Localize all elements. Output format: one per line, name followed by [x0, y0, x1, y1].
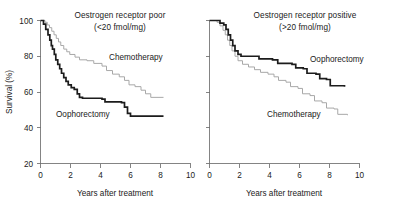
left-ytick-40: 40	[24, 124, 34, 133]
left-xtick-6: 6	[128, 171, 133, 180]
panel-oestrogen-receptor-poor: Oestrogen receptor poor (<20 fmol/mg)	[0, 0, 197, 205]
left-y-ticks	[37, 21, 41, 164]
right-xtick-2: 2	[237, 171, 242, 180]
right-panel-subtitle: (>20 fmol/mg)	[279, 23, 331, 32]
curve-oophorectomy-left	[41, 21, 164, 117]
right-x-ticks	[210, 164, 360, 168]
left-label-chemotherapy: Chemotherapy	[109, 53, 164, 62]
right-xtick-8: 8	[327, 171, 332, 180]
left-panel-plot: Oestrogen receptor poor (<20 fmol/mg)	[0, 0, 197, 205]
left-xtick-4: 4	[98, 171, 103, 180]
left-x-ticks	[41, 164, 191, 168]
left-xtick-10: 10	[186, 171, 196, 180]
right-panel-plot: Oestrogen receptor positive (>20 fmol/mg…	[197, 0, 394, 205]
panel-oestrogen-receptor-positive: Oestrogen receptor positive (>20 fmol/mg…	[197, 0, 394, 205]
left-xtick-2: 2	[68, 171, 73, 180]
right-x-axis-label: Years after treatment	[246, 189, 323, 198]
right-xtick-0: 0	[207, 171, 212, 180]
right-label-oophorectomy: Oophorectomy	[310, 55, 365, 64]
left-x-axis-label: Years after treatment	[77, 189, 154, 198]
right-y-ticks	[206, 21, 210, 164]
right-axes	[206, 21, 360, 168]
left-axes	[37, 21, 191, 168]
left-ytick-100: 100	[19, 17, 33, 26]
left-label-oophorectomy: Oophorectomy	[56, 110, 111, 119]
left-xtick-8: 8	[158, 171, 163, 180]
left-xtick-0: 0	[38, 171, 43, 180]
right-x-ticklabels: 0 2 4 6 8 10	[207, 171, 364, 180]
left-ytick-60: 60	[24, 88, 34, 97]
right-label-chemotherapy: Chemotherapy	[267, 110, 322, 119]
left-ytick-20: 20	[24, 160, 34, 169]
left-ytick-80: 80	[24, 52, 34, 61]
left-y-ticklabels: 100 80 60 40 20	[19, 17, 33, 169]
left-panel-title: Oestrogen receptor poor	[74, 11, 165, 20]
right-panel-title: Oestrogen receptor positive	[254, 11, 357, 20]
right-curves	[210, 21, 348, 116]
left-x-ticklabels: 0 2 4 6 8 10	[38, 171, 195, 180]
left-y-axis-label: Survival (%)	[5, 70, 14, 114]
right-xtick-10: 10	[355, 171, 365, 180]
left-panel-subtitle: (<20 fmol/mg)	[94, 23, 146, 32]
left-curves	[41, 21, 164, 117]
right-xtick-6: 6	[297, 171, 302, 180]
survival-figure: Oestrogen receptor poor (<20 fmol/mg)	[0, 0, 394, 205]
right-xtick-4: 4	[267, 171, 272, 180]
